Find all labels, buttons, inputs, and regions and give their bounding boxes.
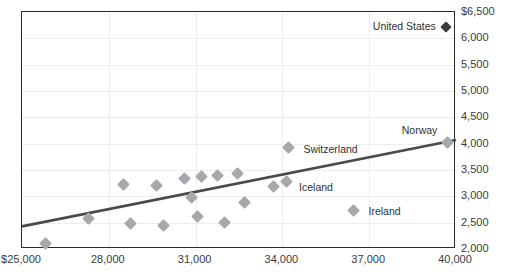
y-tick-5500: 5,500: [461, 59, 489, 70]
y-tick-5000: 5,000: [461, 85, 489, 96]
point-label-norway: Norway: [402, 125, 438, 136]
y-tick-4500: 4,500: [461, 111, 489, 122]
point-label-iceland: Iceland: [299, 182, 333, 193]
x-tick-37000: 37,000: [328, 253, 408, 265]
point-label-united-states: United States: [373, 21, 436, 32]
x-tick-28000: 28,000: [68, 253, 148, 265]
x-tick-34000: 34,000: [241, 253, 321, 265]
point-label-ireland: Ireland: [369, 206, 401, 217]
y-tick-3000: 3,000: [461, 190, 489, 201]
point-label-switzerland: Switzerland: [303, 144, 357, 155]
scatter-chart: United StatesNorwaySwitzerlandIcelandIre…: [0, 0, 511, 278]
y-tick-6500: $6,500: [461, 6, 495, 17]
y-tick-3500: 3,500: [461, 164, 489, 175]
clipped-title: [40, 0, 230, 1]
x-tick-40000: 40,000: [415, 253, 495, 265]
x-tick-25000: $25,000: [0, 253, 61, 265]
y-tick-2500: 2,500: [461, 217, 489, 228]
y-tick-6000: 6,000: [461, 32, 489, 43]
y-tick-4000: 4,000: [461, 138, 489, 149]
x-tick-31000: 31,000: [155, 253, 235, 265]
plot-area: United StatesNorwaySwitzerlandIcelandIre…: [21, 11, 455, 248]
